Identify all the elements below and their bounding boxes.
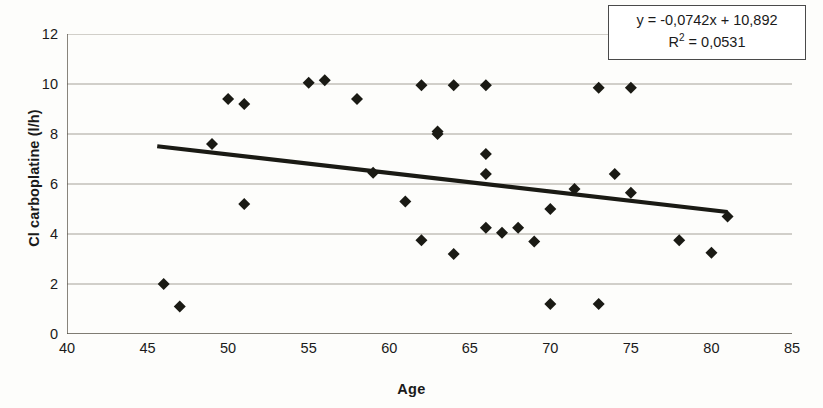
data-point-marker [593, 298, 605, 310]
r-squared-text: R2 = 0,0531 [617, 31, 797, 52]
x-tick-label: 80 [689, 341, 733, 356]
data-point-marker [174, 301, 186, 313]
data-point-marker [351, 93, 363, 105]
plot-area [67, 34, 792, 334]
x-tick-label: 65 [448, 341, 492, 356]
x-axis-title: Age [0, 381, 823, 397]
data-point-marker [480, 148, 492, 160]
x-axis-tick-labels: 40455055606570758085 [67, 341, 792, 363]
data-point-marker [158, 278, 170, 290]
data-point-marker [673, 234, 685, 246]
y-tick-label: 6 [18, 177, 58, 192]
x-tick-label: 85 [770, 341, 814, 356]
data-point-marker [609, 168, 621, 180]
regression-equation-text: y = -0,0742x + 10,892 [617, 11, 797, 31]
gridlines [67, 34, 792, 284]
x-tick-label: 50 [206, 341, 250, 356]
x-tick-label: 45 [126, 341, 170, 356]
y-axis-tick-labels: 024681012 [12, 34, 58, 334]
regression-equation-box: y = -0,0742x + 10,892 R2 = 0,0531 [608, 5, 806, 60]
y-tick-label: 10 [18, 77, 58, 92]
y-tick-label: 4 [18, 227, 58, 242]
data-point-marker [512, 222, 524, 234]
data-point-marker [238, 198, 250, 210]
data-point-marker [705, 247, 717, 259]
x-tick-label: 70 [528, 341, 572, 356]
data-point-marker [415, 79, 427, 91]
r-squared-value: = 0,0531 [685, 33, 746, 49]
data-point-marker [206, 138, 218, 150]
data-point-marker [222, 93, 234, 105]
plot-svg [67, 34, 792, 334]
data-point-marker [238, 98, 250, 110]
y-tick-label: 0 [18, 327, 58, 342]
data-point-marker [448, 248, 460, 260]
data-point-marker [448, 79, 460, 91]
x-tick-label: 40 [45, 341, 89, 356]
scatter-chart: Cl carboplatine (l/h) 024681012 40455055… [0, 0, 823, 408]
data-point-marker [528, 236, 540, 248]
data-points [158, 74, 734, 312]
y-tick-label: 12 [18, 27, 58, 42]
data-point-marker [480, 79, 492, 91]
data-point-marker [625, 187, 637, 199]
r-squared-prefix: R [669, 33, 679, 49]
x-tick-label: 55 [287, 341, 331, 356]
data-point-marker [399, 196, 411, 208]
y-tick-label: 2 [18, 277, 58, 292]
x-tick-label: 75 [609, 341, 653, 356]
x-tick-label: 60 [367, 341, 411, 356]
data-point-marker [544, 203, 556, 215]
data-point-marker [480, 222, 492, 234]
data-point-marker [415, 234, 427, 246]
data-point-marker [544, 298, 556, 310]
data-point-marker [303, 77, 315, 89]
data-point-marker [480, 168, 492, 180]
y-tick-label: 8 [18, 127, 58, 142]
data-point-marker [496, 227, 508, 239]
